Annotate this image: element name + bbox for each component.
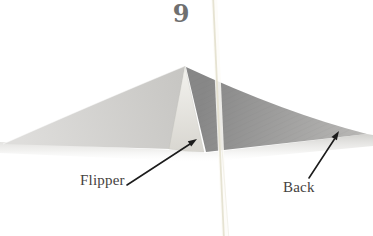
scanned-page: 9 Flipper Back [0,0,373,236]
back-label: Back [283,179,315,196]
origami-figure [0,0,373,236]
flipper-label: Flipper [80,172,125,189]
step-number: 9 [170,1,192,26]
left-wing-face [3,66,185,149]
